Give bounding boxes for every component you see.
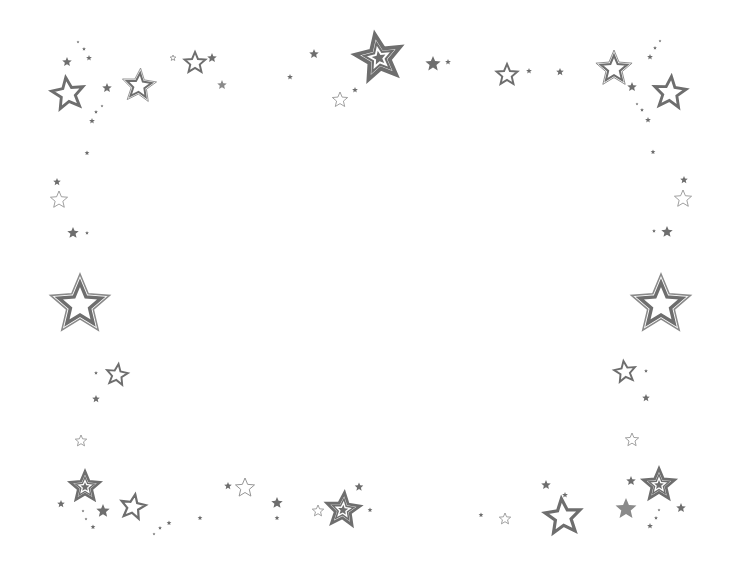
blank-center-area (150, 140, 585, 430)
